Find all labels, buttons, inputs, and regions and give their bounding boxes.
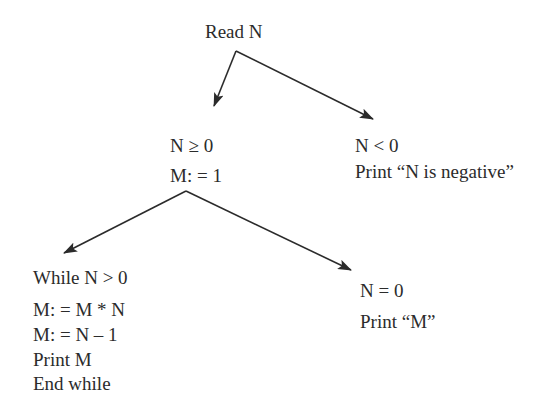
node-loop-line-2: M: = M * N — [33, 300, 125, 319]
node-loop-line-4: Print M — [33, 350, 92, 369]
node-nonneg-condition: N ≥ 0 — [170, 136, 213, 155]
edge-nonneg-to-loop — [64, 191, 186, 253]
edge-nonneg-to-zero — [186, 191, 351, 270]
node-neg-condition: N < 0 — [355, 136, 398, 155]
node-nonneg-assign: M: = 1 — [170, 166, 222, 185]
node-loop-line-1: While N > 0 — [33, 268, 128, 287]
edge-root-to-nonneg — [214, 51, 236, 106]
edge-root-to-neg — [236, 51, 373, 119]
node-zero-condition: N = 0 — [360, 281, 403, 300]
node-root-line-1: Read N — [205, 22, 263, 41]
node-zero-print: Print “M” — [360, 312, 435, 331]
node-loop-line-5: End while — [33, 374, 111, 393]
node-loop-line-3: M: = N – 1 — [33, 325, 118, 344]
node-neg-print: Print “N is negative” — [355, 162, 514, 181]
